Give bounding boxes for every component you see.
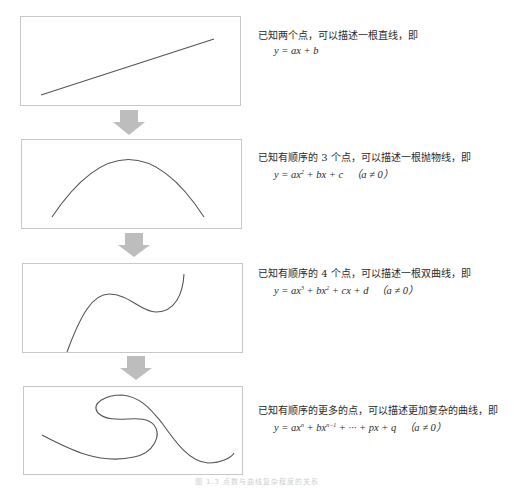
description-text: 已知两个点，可以描述一根直线，即	[258, 30, 418, 41]
straight-line-curve	[21, 17, 242, 107]
cubic-curve	[23, 264, 244, 354]
panel-complex-curve	[23, 386, 243, 475]
formula-cubic: y = ax3 + bx2 + cx + d（a ≠ 0）	[258, 281, 471, 298]
description-stage-1: 已知两个点，可以描述一根直线，即 y = ax + b	[258, 28, 418, 58]
complex-loop-curve	[24, 387, 244, 476]
condition: （a ≠ 0）	[351, 169, 393, 180]
down-arrow-icon	[112, 110, 146, 136]
down-arrow-icon	[117, 233, 151, 258]
panel-cubic	[22, 263, 243, 353]
panel-parabola	[21, 139, 242, 229]
formula-polynomial: y = axn + bxn−1 + ··· + px + q（a ≠ 0）	[258, 418, 498, 435]
formula-quadratic: y = ax2 + bx + c（a ≠ 0）	[258, 165, 471, 182]
description-stage-2: 已知有顺序的 3 个点，可以描述一根抛物线，即 y = ax2 + bx + c…	[258, 150, 471, 182]
condition: （a ≠ 0）	[404, 422, 446, 433]
description-text: 已知有顺序的更多的点，可以描述更加复杂的曲线，即	[258, 405, 498, 416]
description-text: 已知有顺序的 3 个点，可以描述一根抛物线，即	[258, 152, 471, 163]
condition: （a ≠ 0）	[376, 285, 418, 296]
formula-linear: y = ax + b	[258, 43, 418, 58]
description-stage-4: 已知有顺序的更多的点，可以描述更加复杂的曲线，即 y = axn + bxn−1…	[258, 403, 498, 435]
down-arrow-icon	[119, 356, 153, 381]
panel-straight-line	[20, 16, 241, 106]
description-stage-3: 已知有顺序的 4 个点，可以描述一根双曲线，即 y = ax3 + bx2 + …	[258, 266, 471, 298]
figure-caption: 图 1.3 点数与曲线复杂程度的关系	[0, 476, 514, 486]
parabola-curve	[22, 140, 243, 230]
description-text: 已知有顺序的 4 个点，可以描述一根双曲线，即	[258, 268, 471, 279]
